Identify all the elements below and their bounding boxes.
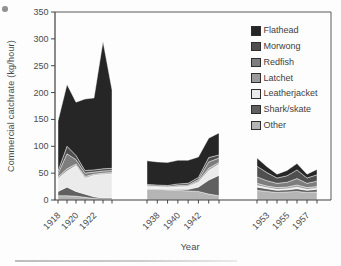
legend-item-morwong: Morwong bbox=[251, 42, 318, 52]
y-tick-label: 100 bbox=[33, 141, 48, 151]
legend-label: Latchet bbox=[264, 74, 294, 83]
legend-label: Other bbox=[264, 121, 287, 130]
x-tick-label: 1955 bbox=[270, 210, 291, 231]
y-tick-label: 150 bbox=[33, 114, 48, 124]
bottom-divider-rule bbox=[15, 260, 237, 262]
x-tick-label: 1920 bbox=[59, 210, 80, 231]
legend-swatch-icon bbox=[251, 121, 261, 131]
legend-item-redfish: Redfish bbox=[251, 58, 318, 68]
x-tick-label: 1953 bbox=[250, 210, 271, 231]
legend: FlatheadMorwongRedfishLatchetLeatherjack… bbox=[251, 26, 318, 137]
y-tick-label: 300 bbox=[33, 34, 48, 44]
legend-label: Shark/skate bbox=[264, 105, 312, 114]
y-axis-title: Commercial catchrate (kg/hour) bbox=[6, 11, 18, 201]
legend-item-other: Other bbox=[251, 121, 318, 131]
legend-item-latchet: Latchet bbox=[251, 73, 318, 83]
x-tick-label: 1940 bbox=[161, 210, 182, 231]
y-tick-label: 250 bbox=[33, 61, 48, 71]
x-tick-label: 1918 bbox=[41, 210, 62, 231]
legend-item-leatherjacket: Leatherjacket bbox=[251, 89, 318, 99]
y-tick-label: 350 bbox=[33, 7, 48, 17]
x-tick-label: 1942 bbox=[182, 210, 203, 231]
legend-swatch-icon bbox=[251, 73, 261, 83]
x-tick-label: 1922 bbox=[77, 210, 98, 231]
legend-swatch-icon bbox=[251, 42, 261, 52]
legend-item-shark-skate: Shark/skate bbox=[251, 105, 318, 115]
x-tick-label: 1957 bbox=[290, 210, 311, 231]
legend-label: Leatherjacket bbox=[264, 89, 318, 98]
y-tick-label: 200 bbox=[33, 88, 48, 98]
x-axis-title: Year bbox=[120, 241, 260, 252]
legend-label: Redfish bbox=[264, 58, 295, 67]
legend-label: Flathead bbox=[264, 26, 299, 35]
y-tick-label: 0 bbox=[43, 195, 48, 205]
legend-label: Morwong bbox=[264, 42, 301, 51]
legend-swatch-icon bbox=[251, 105, 261, 115]
legend-item-flathead: Flathead bbox=[251, 26, 318, 36]
x-tick-label: 1938 bbox=[140, 210, 161, 231]
legend-swatch-icon bbox=[251, 58, 261, 68]
legend-swatch-icon bbox=[251, 26, 261, 36]
y-tick-label: 50 bbox=[38, 168, 48, 178]
legend-swatch-icon bbox=[251, 89, 261, 99]
stacked-area-figure: 1918192019221938194019421953195519570501… bbox=[0, 0, 341, 266]
scan-artifact-speck bbox=[2, 6, 8, 12]
